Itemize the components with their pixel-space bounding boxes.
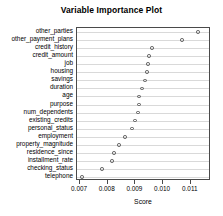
y-axis-label: other_payment_plans bbox=[1, 36, 73, 42]
data-point bbox=[137, 103, 141, 107]
gridline bbox=[77, 64, 209, 65]
data-point bbox=[146, 62, 150, 66]
y-axis-label: installment_rate bbox=[1, 157, 73, 163]
gridline bbox=[77, 105, 209, 106]
y-axis-label: property_magnitude bbox=[1, 141, 73, 147]
y-axis-label: job bbox=[1, 60, 73, 66]
gridline bbox=[77, 137, 209, 138]
y-axis-label: other_parties bbox=[1, 28, 73, 34]
y-axis-label: purpose bbox=[1, 100, 73, 106]
gridline bbox=[77, 72, 209, 73]
data-point bbox=[123, 135, 127, 139]
y-axis-category-labels: other_partiesother_payment_planscredit_h… bbox=[0, 27, 73, 180]
y-axis-label: credit_history bbox=[1, 44, 73, 50]
y-axis-label: credit_amount bbox=[1, 52, 73, 58]
y-axis-label: savings bbox=[1, 76, 73, 82]
x-axis: 0.0070.0080.0090.0100.011 bbox=[76, 180, 210, 196]
y-axis-label: num_dependents bbox=[1, 108, 73, 114]
x-axis-tick-label: 0.011 bbox=[182, 185, 198, 192]
gridline bbox=[77, 40, 209, 41]
data-point bbox=[147, 54, 151, 58]
x-axis-tick-label: 0.009 bbox=[126, 185, 142, 192]
data-point bbox=[145, 70, 149, 74]
data-point bbox=[196, 30, 200, 34]
gridline bbox=[77, 121, 209, 122]
data-point bbox=[110, 159, 114, 163]
data-point bbox=[80, 175, 84, 179]
data-point bbox=[137, 95, 141, 99]
y-axis-label: age bbox=[1, 92, 73, 98]
gridline bbox=[77, 96, 209, 97]
data-point bbox=[136, 111, 140, 115]
y-axis-label: housing bbox=[1, 68, 73, 74]
x-axis-tick-mark bbox=[190, 180, 191, 184]
variable-importance-figure: Variable Importance Plot other_partiesot… bbox=[0, 0, 223, 216]
data-point bbox=[100, 167, 104, 171]
data-point bbox=[143, 79, 147, 83]
gridline bbox=[77, 161, 209, 162]
gridline bbox=[77, 145, 209, 146]
y-axis-label: employment bbox=[1, 133, 73, 139]
y-axis-label: residence_since bbox=[1, 149, 73, 155]
data-point bbox=[133, 119, 137, 123]
x-axis-tick-mark bbox=[134, 180, 135, 184]
y-axis-label: telephone bbox=[1, 173, 73, 179]
y-axis-label: duration bbox=[1, 84, 73, 90]
data-point bbox=[112, 151, 116, 155]
x-axis-tick-label: 0.007 bbox=[71, 185, 87, 192]
data-point bbox=[130, 127, 134, 131]
plot-area bbox=[76, 27, 210, 180]
y-axis-label: existing_credits bbox=[1, 116, 73, 122]
x-axis-tick-label: 0.008 bbox=[99, 185, 115, 192]
gridline bbox=[77, 169, 209, 170]
data-point bbox=[140, 87, 144, 91]
data-point bbox=[180, 38, 184, 42]
x-axis-tick-mark bbox=[162, 180, 163, 184]
y-axis-label: checking_status bbox=[1, 165, 73, 171]
gridline bbox=[77, 32, 209, 33]
gridline bbox=[77, 129, 209, 130]
gridline bbox=[77, 153, 209, 154]
chart-title: Variable Importance Plot bbox=[0, 5, 223, 15]
gridline bbox=[77, 113, 209, 114]
data-point bbox=[117, 143, 121, 147]
data-point bbox=[150, 46, 154, 50]
x-axis-tick-label: 0.010 bbox=[154, 185, 170, 192]
gridline bbox=[77, 177, 209, 178]
gridline bbox=[77, 56, 209, 57]
gridline bbox=[77, 48, 209, 49]
y-axis-label: personal_status bbox=[1, 124, 73, 130]
x-axis-tick-mark bbox=[107, 180, 108, 184]
x-axis-title: Score bbox=[76, 198, 210, 205]
x-axis-tick-mark bbox=[79, 180, 80, 184]
